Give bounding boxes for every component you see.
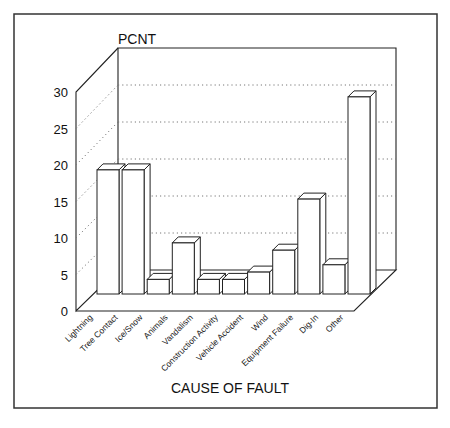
x-tick-label: Wind (249, 312, 270, 333)
bar (147, 273, 175, 294)
x-tick-label: Vehicle Accident (194, 312, 245, 363)
y-axis-ticks: 051015202530 (54, 85, 68, 319)
bar (97, 164, 125, 294)
y-tick-label: 15 (54, 195, 68, 210)
bar (172, 237, 200, 294)
bar (122, 164, 150, 294)
bar-chart-3d: 051015202530 LightningTree ContactIce/Sn… (0, 0, 450, 428)
bars (97, 91, 376, 294)
y-axis-title: PCNT (118, 31, 157, 47)
bar (223, 273, 251, 294)
bar (248, 266, 276, 294)
bar (298, 193, 326, 294)
bar (197, 273, 225, 294)
bar (348, 91, 376, 294)
gridline-side (76, 122, 118, 165)
x-tick-label: Ice/Snow (113, 312, 145, 344)
x-axis-title: CAUSE OF FAULT (171, 380, 289, 396)
bar (323, 259, 351, 294)
y-tick-label: 5 (61, 268, 68, 283)
x-tick-label: Dig-In (297, 312, 320, 335)
x-tick-label: Other (323, 312, 345, 334)
y-tick-label: 20 (54, 158, 68, 173)
y-tick-label: 0 (61, 304, 68, 319)
bar (273, 244, 301, 294)
y-tick-label: 10 (54, 231, 68, 246)
gridline-side (76, 85, 118, 129)
y-tick-label: 25 (54, 122, 68, 137)
x-axis-labels: LightningTree ContactIce/SnowAnimalsVand… (63, 312, 346, 374)
y-tick-label: 30 (54, 85, 68, 100)
